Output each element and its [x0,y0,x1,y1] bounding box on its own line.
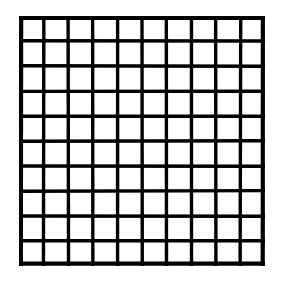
grid-diagram [19,16,265,266]
grid-line-horizontal-7 [19,191,265,192]
grid-line-group [19,16,265,266]
grid-line-horizontal-2 [19,66,265,67]
grid-line-horizontal-5 [19,141,265,142]
grid-svg [19,16,265,266]
figure-canvas [0,0,282,282]
